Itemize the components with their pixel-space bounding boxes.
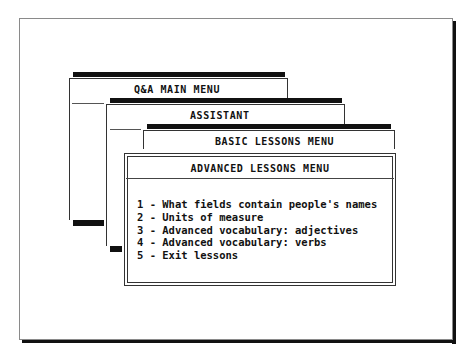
menu-item-vocab-adjectives[interactable]: 3 - Advanced vocabulary: adjectives	[137, 224, 377, 237]
assistant-left-border	[106, 104, 107, 246]
main-menu-separator	[72, 103, 104, 104]
assistant-top-shadow-bar	[110, 98, 342, 103]
main-menu-top-shadow-bar	[73, 72, 285, 77]
basic-lessons-left-border	[143, 130, 144, 149]
main-menu-bottom-shadow	[73, 220, 104, 226]
advanced-lessons-menu: 1 - What fields contain people's names 2…	[137, 198, 377, 262]
menu-item-vocab-verbs[interactable]: 4 - Advanced vocabulary: verbs	[137, 236, 377, 249]
menu-item-people-names[interactable]: 1 - What fields contain people's names	[137, 198, 377, 211]
advanced-lessons-separator	[126, 178, 394, 179]
main-menu-top-border	[69, 78, 287, 79]
advanced-lessons-window[interactable]: ADVANCED LESSONS MENU 1 - What fields co…	[124, 153, 396, 286]
main-menu-left-border	[69, 78, 70, 220]
basic-lessons-right-border	[394, 130, 395, 149]
assistant-top-border	[106, 104, 345, 105]
advanced-lessons-title: ADVANCED LESSONS MENU	[125, 163, 395, 175]
assistant-title: ASSISTANT	[190, 110, 250, 122]
assistant-bottom-shadow	[110, 246, 122, 252]
basic-lessons-title: BASIC LESSONS MENU	[215, 136, 334, 148]
main-menu-right-border	[287, 78, 288, 99]
main-menu-title: Q&A MAIN MENU	[134, 84, 220, 96]
assistant-right-border	[344, 104, 345, 125]
menu-item-units-of-measure[interactable]: 2 - Units of measure	[137, 211, 377, 224]
basic-lessons-top-border	[143, 130, 395, 131]
basic-lessons-top-shadow-bar	[147, 124, 391, 129]
assistant-separator	[110, 129, 141, 130]
menu-item-exit-lessons[interactable]: 5 - Exit lessons	[137, 249, 377, 262]
